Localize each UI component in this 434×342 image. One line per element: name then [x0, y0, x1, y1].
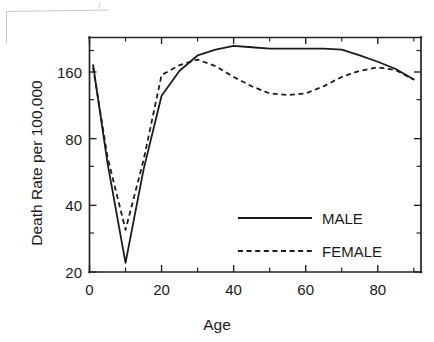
chart-figure: 204080160 020406080 Death Rate per 100,0… — [0, 0, 434, 342]
plot-axes — [89, 37, 422, 273]
x-axis-tick-marks — [90, 37, 414, 272]
x-tick-label: 20 — [153, 281, 170, 298]
legend — [238, 218, 312, 251]
x-tick-label: 80 — [369, 281, 386, 298]
x-tick-label: 40 — [225, 281, 242, 298]
legend-label-female: FEMALE — [322, 243, 382, 260]
x-tick-label: 60 — [297, 281, 314, 298]
series-line-female — [93, 60, 414, 230]
y-axis-title: Death Rate per 100,000 — [28, 48, 46, 278]
x-axis-title: Age — [0, 316, 434, 334]
y-axis-tick-marks — [90, 51, 422, 272]
x-tick-label: 0 — [85, 281, 93, 298]
series-line-male — [93, 46, 414, 263]
legend-label-male: MALE — [322, 210, 363, 227]
